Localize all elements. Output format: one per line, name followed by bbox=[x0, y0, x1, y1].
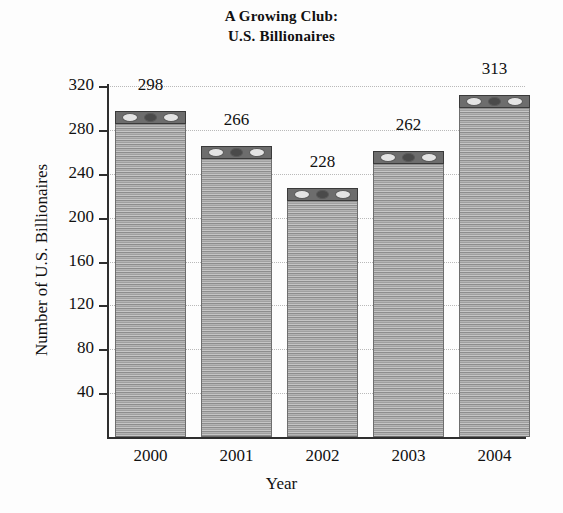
bill-portrait-oval bbox=[208, 148, 224, 157]
x-axis-tick-label: 2002 bbox=[287, 446, 358, 466]
x-axis-line bbox=[107, 437, 526, 439]
plot-area bbox=[108, 86, 525, 437]
bill-portrait-oval bbox=[488, 97, 501, 106]
y-axis-tick-label: 120 bbox=[48, 294, 94, 314]
y-axis-tick-label: 280 bbox=[48, 119, 94, 139]
y-axis-tick bbox=[99, 218, 109, 220]
bill-portrait-oval bbox=[294, 190, 310, 199]
bill-portrait-oval bbox=[144, 113, 157, 122]
bill-portrait-oval bbox=[122, 113, 138, 122]
bar-value-label: 228 bbox=[310, 152, 336, 172]
bar-value-label: 262 bbox=[396, 115, 422, 135]
bill-portrait-oval bbox=[230, 148, 243, 157]
bar[interactable] bbox=[287, 200, 358, 437]
x-axis-tick-label: 2001 bbox=[201, 446, 272, 466]
dollar-bill-icon bbox=[287, 188, 358, 201]
bill-portrait-oval bbox=[335, 190, 351, 199]
y-axis-tick-label: 200 bbox=[48, 207, 94, 227]
bar[interactable] bbox=[201, 158, 272, 437]
y-axis-tick-label: 320 bbox=[48, 75, 94, 95]
bar[interactable] bbox=[459, 107, 530, 437]
y-axis-tick-label: 240 bbox=[48, 163, 94, 183]
bar[interactable] bbox=[373, 163, 444, 437]
chart-page: A Growing Club: U.S. Billionaires Number… bbox=[0, 0, 563, 513]
x-axis-tick-label: 2000 bbox=[115, 446, 186, 466]
bill-portrait-oval bbox=[507, 97, 523, 106]
bill-portrait-oval bbox=[466, 97, 482, 106]
bar-value-label: 313 bbox=[482, 59, 508, 79]
y-axis-tick-label: 80 bbox=[48, 338, 94, 358]
y-axis-tick bbox=[99, 349, 109, 351]
dollar-bill-icon bbox=[115, 111, 186, 124]
x-axis-tick-label: 2003 bbox=[373, 446, 444, 466]
dollar-bill-icon bbox=[201, 146, 272, 159]
y-axis-tick bbox=[99, 305, 109, 307]
y-axis-tick-label: 160 bbox=[48, 251, 94, 271]
bar-value-label: 266 bbox=[224, 110, 250, 130]
y-axis-tick bbox=[99, 86, 109, 88]
bill-portrait-oval bbox=[402, 153, 415, 162]
y-axis-tick-label: 40 bbox=[48, 382, 94, 402]
bill-portrait-oval bbox=[421, 153, 437, 162]
gridline bbox=[108, 86, 525, 87]
x-axis-title: Year bbox=[0, 474, 563, 494]
y-axis-tick bbox=[99, 174, 109, 176]
y-axis-tick-labels: 4080120160200240280320 bbox=[44, 0, 94, 513]
bill-portrait-oval bbox=[380, 153, 396, 162]
y-axis-tick bbox=[99, 262, 109, 264]
dollar-bill-icon bbox=[459, 95, 530, 108]
dollar-bill-icon bbox=[373, 151, 444, 164]
y-axis-tick bbox=[99, 393, 109, 395]
y-axis-tick bbox=[99, 130, 109, 132]
bill-portrait-oval bbox=[163, 113, 179, 122]
bar[interactable] bbox=[115, 123, 186, 437]
bar-value-label: 298 bbox=[138, 75, 164, 95]
bill-portrait-oval bbox=[249, 148, 265, 157]
x-axis-tick-label: 2004 bbox=[459, 446, 530, 466]
bill-portrait-oval bbox=[316, 190, 329, 199]
